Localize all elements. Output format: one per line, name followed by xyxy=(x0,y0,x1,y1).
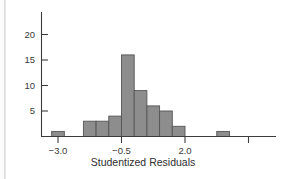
histogram-figure: 5101520 −3.0−0.52.0 Studentized Residual… xyxy=(0,0,285,179)
x-tick-label: −3.0 xyxy=(49,145,68,156)
histogram-bar xyxy=(134,91,147,137)
histogram-bar xyxy=(217,131,230,136)
y-axis-ticks: 5101520 xyxy=(24,29,48,117)
x-tick-label: −0.5 xyxy=(112,145,131,156)
x-axis-ticks: −3.0−0.52.0 xyxy=(49,137,249,156)
x-axis-title: Studentized Residuals xyxy=(91,156,195,168)
histogram-plot: 5101520 −3.0−0.52.0 Studentized Residual… xyxy=(0,0,285,179)
histogram-bar xyxy=(122,55,135,137)
histogram-bar xyxy=(109,116,122,136)
bars-layer xyxy=(52,55,230,137)
y-tick-label: 10 xyxy=(24,80,35,91)
histogram-bar xyxy=(96,121,109,136)
histogram-bar xyxy=(83,121,96,136)
histogram-bar xyxy=(160,111,173,137)
histogram-bar xyxy=(52,131,65,136)
histogram-bar xyxy=(172,126,185,136)
y-tick-label: 5 xyxy=(30,105,35,116)
y-tick-label: 15 xyxy=(24,54,35,65)
y-tick-label: 20 xyxy=(24,29,35,40)
histogram-bar xyxy=(147,106,160,137)
x-tick-label: 2.0 xyxy=(178,145,191,156)
